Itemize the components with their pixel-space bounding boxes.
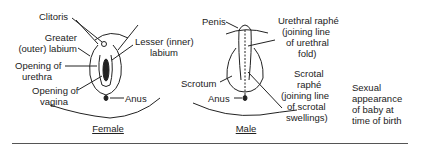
label-scrotal-raphe-1: Scrotal [294,69,324,80]
label-urethra-1: Opening of [15,61,61,72]
side-caption-line-1: Sexual [352,83,381,94]
diagram-figure: Clitoris Greater (outer) labium Lesser (… [0,0,423,149]
label-male-anus: Anus [208,94,230,105]
label-scrotal-raphe-4: of scrotal [287,102,326,113]
label-vagina-2: vagina [40,97,68,108]
label-greater-labium-2: (outer) labium [7,44,77,55]
label-female-anus: Anus [125,94,147,105]
label-scrotum: Scrotum [181,79,216,90]
side-caption-line-4: time of birth [352,116,402,127]
label-lesser-labium-2: labium [150,48,178,59]
female-caption: Female [88,124,128,135]
label-scrotal-raphe-2: raphé [297,80,321,91]
label-urethral-raphe-2: (joining line [282,27,330,38]
male-caption: Male [228,124,264,135]
label-scrotal-raphe-5: swellings) [286,113,328,124]
label-urethra-2: urethra [22,72,52,83]
label-urethral-raphe-4: fold) [298,49,316,60]
side-caption-line-3: of baby at [352,105,394,116]
bottom-divider [12,143,408,144]
label-penis: Penis [202,17,226,28]
label-greater-labium-1: Greater [7,33,77,44]
label-clitoris: Clitoris [39,12,68,23]
side-caption-line-2: appearance [352,94,402,105]
label-scrotal-raphe-3: (joining line [281,91,329,102]
label-urethral-raphe-1: Urethral raphé [278,16,339,27]
label-lesser-labium-1: Lesser (inner) [135,37,194,48]
label-vagina-1: Opening of [32,86,78,97]
label-urethral-raphe-3: of urethral [286,38,329,49]
